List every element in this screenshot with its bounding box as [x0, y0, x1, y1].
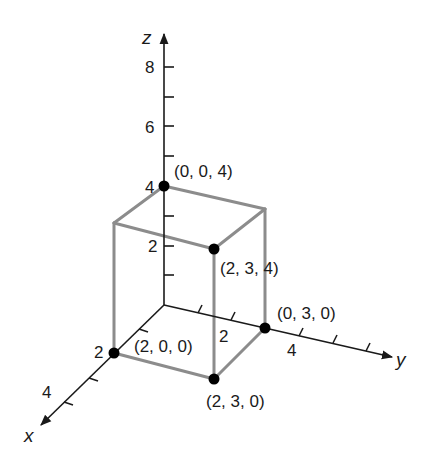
z-tick-6: 6 [145, 118, 154, 137]
y-axis-label: y [394, 349, 407, 370]
axes [41, 34, 392, 425]
z-axis-label: z [141, 27, 152, 48]
z-tick-8: 8 [145, 58, 154, 77]
coordinate-diagram: z y x 8 6 4 2 2 4 2 4 (0, 0, 4) (2, 3, 4… [0, 0, 423, 461]
label-0-0-4: (0, 0, 4) [174, 162, 233, 181]
z-tick-2: 2 [148, 237, 157, 256]
label-0-3-0: (0, 3, 0) [277, 304, 336, 323]
label-2-3-4: (2, 3, 4) [220, 259, 279, 278]
label-2-0-0: (2, 0, 0) [134, 337, 193, 356]
z-tick-4: 4 [145, 178, 154, 197]
x-tick-2: 2 [94, 343, 103, 362]
x-tick-4: 4 [42, 383, 51, 402]
point-0-3-0 [260, 323, 271, 334]
y-tick-4: 4 [287, 341, 296, 360]
point-0-0-4 [159, 181, 170, 192]
figure: z y x 8 6 4 2 2 4 2 4 (0, 0, 4) (2, 3, 4… [0, 0, 423, 461]
label-2-3-0: (2, 3, 0) [206, 392, 265, 411]
x-axis-label: x [23, 425, 35, 446]
point-2-3-0 [209, 374, 220, 385]
y-tick-2: 2 [219, 327, 228, 346]
point-2-3-4 [209, 244, 220, 255]
point-2-0-0 [109, 348, 120, 359]
x-axis [41, 305, 164, 425]
